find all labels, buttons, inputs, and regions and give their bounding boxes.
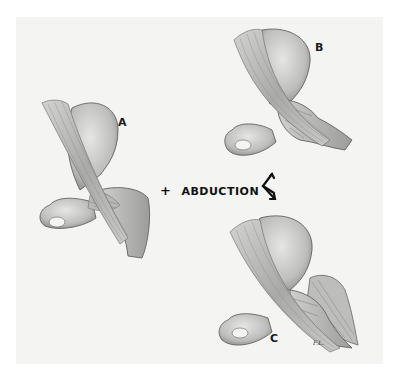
abduction-text: ABDUCTION — [181, 185, 259, 198]
abduction-caption: +ABDUCTION — [160, 183, 259, 198]
label-b: B — [315, 42, 323, 53]
figure-b-hip-joint — [225, 29, 352, 155]
label-a: A — [118, 117, 127, 128]
abduction-arrows-icon — [263, 174, 275, 199]
plus-sign: + — [160, 183, 171, 198]
artist-signature: F.L. — [313, 339, 324, 346]
figure-c-hip-joint — [219, 216, 358, 352]
figure-a-hip-joint — [40, 100, 150, 258]
label-c: C — [270, 333, 278, 344]
